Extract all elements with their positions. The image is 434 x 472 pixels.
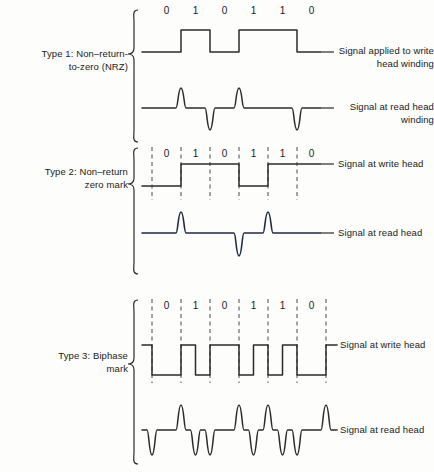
type3-read-waveform: [0, 0, 434, 472]
right-label-type3-read: Signal at read head: [340, 424, 434, 437]
encoding-waveform-figure: Type 1: Non–return- to-zero (NRZ) 0 1 0 …: [0, 0, 434, 472]
waveform-path: [142, 405, 336, 455]
